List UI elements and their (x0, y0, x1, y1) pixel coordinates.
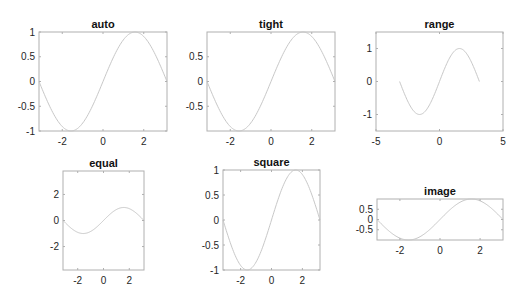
x-tick-label: 0 (437, 136, 443, 147)
x-tick-label: -2 (226, 136, 235, 147)
subplot-title: tight (259, 18, 283, 30)
x-tick-label: 0 (437, 245, 443, 256)
y-tick-label: 0 (366, 76, 372, 87)
subplot-title: equal (89, 157, 118, 169)
x-tick-label: -2 (236, 275, 245, 286)
y-tick-label: 0.5 (205, 190, 219, 201)
subplot-equal: equal-202-202 (50, 157, 144, 286)
y-tick-label: -0.5 (18, 101, 36, 112)
x-tick-label: 0 (100, 136, 106, 147)
x-tick-label: 2 (127, 275, 133, 286)
x-tick-label: 2 (477, 245, 483, 256)
y-tick-label: 0 (53, 215, 59, 226)
y-tick-label: -1 (210, 265, 219, 276)
y-tick-label: -0.5 (202, 240, 220, 251)
subplot-tight: tight-202-0.500.5 (186, 18, 335, 147)
y-tick-label: 1 (213, 165, 219, 176)
x-tick-label: -2 (58, 136, 67, 147)
y-tick-label: -0.5 (356, 224, 374, 235)
subplot-auto: auto-202-1-0.500.51 (18, 18, 167, 147)
figure: auto-202-1-0.500.51tight-202-0.500.5rang… (0, 0, 524, 298)
x-tick-label: 2 (300, 275, 306, 286)
x-tick-label: 2 (309, 136, 315, 147)
x-tick-label: 5 (500, 136, 506, 147)
subplot-title: range (425, 18, 455, 30)
y-tick-label: 0 (197, 76, 203, 87)
y-tick-label: 0.5 (21, 51, 35, 62)
x-tick-label: 0 (269, 275, 275, 286)
subplot-image: image-202-0.500.5 (356, 185, 503, 256)
subplot-range: range-505-101 (363, 18, 506, 147)
y-tick-label: -1 (363, 109, 372, 120)
x-tick-label: 0 (101, 275, 107, 286)
y-tick-label: 2 (53, 189, 59, 200)
x-tick-label: -2 (73, 275, 82, 286)
x-tick-label: 2 (141, 136, 147, 147)
x-tick-label: -2 (395, 245, 404, 256)
x-tick-label: 0 (268, 136, 274, 147)
y-tick-label: 1 (29, 27, 35, 38)
y-tick-label: -0.5 (186, 101, 204, 112)
y-tick-label: 0.5 (359, 204, 373, 215)
subplot-title: auto (91, 18, 115, 30)
y-tick-label: 0 (213, 215, 219, 226)
subplot-title: square (253, 156, 289, 168)
x-tick-label: -5 (372, 136, 381, 147)
subplot-title: image (424, 185, 456, 197)
y-tick-label: -1 (26, 126, 35, 137)
y-tick-label: -2 (50, 241, 59, 252)
y-tick-label: 0 (367, 214, 373, 225)
y-tick-label: 0 (29, 76, 35, 87)
subplot-square: square-202-1-0.500.51 (202, 156, 320, 286)
y-tick-label: 0.5 (189, 51, 203, 62)
y-tick-label: 1 (366, 43, 372, 54)
